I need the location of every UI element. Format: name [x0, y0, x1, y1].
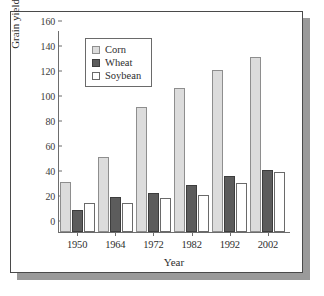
bar-corn-2002[interactable] — [250, 57, 261, 232]
legend-swatch-icon — [92, 72, 100, 80]
figure-container: Grain yield (bu/ac) 02040608010012014016… — [10, 11, 303, 273]
x-axis-tick-label: 1992 — [220, 239, 240, 250]
bar-group-bars — [250, 32, 285, 232]
y-axis-tick-label: 140 — [41, 41, 55, 52]
bar-corn-1982[interactable] — [174, 88, 185, 232]
bar-wheat-1964[interactable] — [110, 197, 121, 232]
bar-soybean-1972[interactable] — [160, 198, 171, 232]
y-axis-tick-label: 100 — [41, 91, 55, 102]
x-axis-tick-label: 1964 — [105, 239, 125, 250]
x-axis-tick-mark — [115, 232, 116, 236]
x-axis-line — [58, 232, 290, 233]
legend-item-corn[interactable]: Corn — [92, 43, 141, 56]
x-axis-tick-mark — [77, 232, 78, 236]
y-axis-tick-label: 80 — [45, 116, 55, 127]
legend-item-soybean[interactable]: Soybean — [92, 69, 141, 82]
y-axis-tick-label: 0 — [50, 216, 55, 227]
y-axis-tick: 60 — [45, 141, 58, 152]
y-axis-tick: 40 — [45, 166, 58, 177]
y-axis-tick: 80 — [45, 116, 58, 127]
legend-swatch-icon — [92, 59, 100, 67]
y-axis-tick: 0 — [50, 216, 58, 227]
bar-corn-1972[interactable] — [136, 107, 147, 232]
bar-wheat-1992[interactable] — [224, 176, 235, 232]
y-axis-tick: 120 — [41, 66, 58, 77]
bar-group: 2002 — [250, 32, 285, 232]
bar-soybean-1950[interactable] — [84, 203, 95, 232]
x-axis-tick-label: 1982 — [181, 239, 201, 250]
y-axis-tick-label: 120 — [41, 66, 55, 77]
x-axis-tick-label: 2002 — [258, 239, 278, 250]
legend: CornWheatSoybean — [85, 38, 152, 87]
x-axis-tick-mark — [230, 232, 231, 236]
legend-item-wheat[interactable]: Wheat — [92, 56, 141, 69]
y-axis-tick-mark — [58, 21, 62, 22]
y-axis-tick: 160 — [41, 16, 58, 27]
y-axis-tick-label: 160 — [41, 16, 55, 27]
figure-frame: Grain yield (bu/ac) 02040608010012014016… — [10, 11, 303, 273]
bar-wheat-2002[interactable] — [262, 170, 273, 233]
bar-soybean-1982[interactable] — [198, 195, 209, 233]
bar-corn-1964[interactable] — [98, 157, 109, 232]
legend-label: Wheat — [105, 57, 132, 68]
y-axis-tick: 20 — [45, 191, 58, 202]
bar-soybean-2002[interactable] — [274, 172, 285, 232]
y-axis-tick: 140 — [41, 41, 58, 52]
bar-wheat-1972[interactable] — [148, 193, 159, 232]
x-axis-tick-mark — [192, 232, 193, 236]
legend-label: Soybean — [105, 70, 141, 81]
bar-group: 1982 — [174, 32, 209, 232]
bar-wheat-1950[interactable] — [72, 210, 83, 233]
x-axis-tick-label: 1972 — [143, 239, 163, 250]
x-axis-tick-mark — [153, 232, 154, 236]
bar-corn-1950[interactable] — [60, 182, 71, 232]
x-axis-tick-label: 1950 — [67, 239, 87, 250]
y-axis-title: Grain yield (bu/ac) — [9, 0, 21, 72]
bar-soybean-1964[interactable] — [122, 203, 133, 232]
y-axis-tick-label: 20 — [45, 191, 55, 202]
legend-swatch-icon — [92, 46, 100, 54]
x-axis-tick-mark — [268, 232, 269, 236]
bar-wheat-1982[interactable] — [186, 185, 197, 233]
bar-soybean-1992[interactable] — [236, 183, 247, 232]
bar-corn-1992[interactable] — [212, 70, 223, 233]
bar-group: 1992 — [212, 32, 247, 232]
y-axis-tick-label: 60 — [45, 141, 55, 152]
y-axis-tick: 100 — [41, 91, 58, 102]
bar-group-bars — [212, 32, 247, 232]
x-axis-title: Year — [58, 256, 290, 268]
y-axis-tick-label: 40 — [45, 166, 55, 177]
bar-group-bars — [174, 32, 209, 232]
legend-label: Corn — [105, 44, 126, 55]
